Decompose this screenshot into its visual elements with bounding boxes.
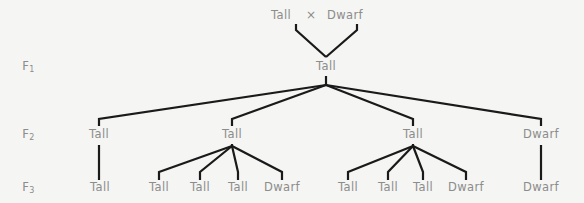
edge-f2-2-to-f3-4 [232, 146, 282, 180]
f3-node-8: Tall [413, 182, 433, 194]
cross-symbol-icon: × [306, 9, 316, 21]
parent-node-tall: Tall [271, 10, 291, 22]
edge-f2-3-to-f3-1 [348, 146, 413, 180]
edge-f2-2-to-f3-3 [232, 146, 238, 180]
f3-node-10: Dwarf [523, 182, 559, 194]
f2-node-4: Dwarf [523, 129, 559, 141]
edge-f2-2-to-f3-1 [159, 146, 232, 180]
f2-node-2: Tall [222, 129, 242, 141]
f3-node-9: Dwarf [448, 182, 484, 194]
edge-f1-to-f2-1 [99, 85, 326, 126]
generation-label-f2: F2 [22, 129, 34, 141]
generation-label-f1: F1 [22, 61, 34, 73]
f3-node-1: Tall [90, 182, 110, 194]
f3-node-7: Tall [378, 182, 398, 194]
f2-node-3: Tall [403, 129, 423, 141]
pedigree-connector-lines [0, 0, 584, 203]
f3-node-2: Tall [149, 182, 169, 194]
edge-parent-right-to-f1 [326, 24, 357, 57]
edge-f2-3-to-f3-4 [413, 146, 466, 180]
f3-node-6: Tall [338, 182, 358, 194]
edge-f1-to-f2-4 [326, 85, 541, 126]
f1-node-1: Tall [316, 61, 336, 73]
parent-node-dwarf: Dwarf [327, 10, 363, 22]
pedigree-figure: F1 F2 F3 Tall × Dwarf Tall Tall Tall Tal… [0, 0, 584, 203]
generation-label-f3: F3 [22, 182, 34, 194]
f3-node-5: Dwarf [264, 182, 300, 194]
edge-parent-left-to-f1 [296, 24, 326, 57]
f2-node-1: Tall [89, 129, 109, 141]
f3-node-4: Tall [228, 182, 248, 194]
f3-node-3: Tall [190, 182, 210, 194]
